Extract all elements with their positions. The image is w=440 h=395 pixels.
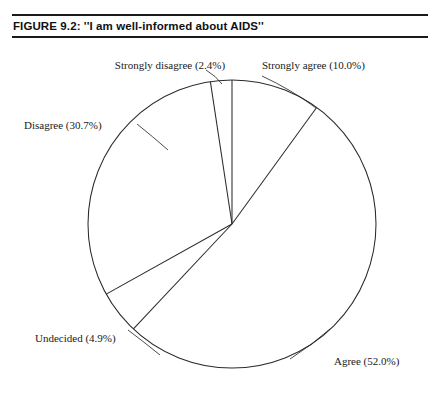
pie-label-strongly-disagree: Strongly disagree (2.4%) [115, 59, 226, 72]
pie-spoke-undecided-start [133, 224, 232, 329]
leader-line-disagree [137, 124, 168, 150]
pie-chart-svg: Strongly disagree (2.4%) Strongly agree … [0, 46, 440, 395]
pie-spoke-agree-start [232, 108, 317, 225]
figure-title-block: FIGURE 9.2: ''I am well-informed about A… [12, 14, 428, 38]
pie-label-disagree: Disagree (30.7%) [24, 119, 102, 132]
pie-spoke-disagree-start [106, 224, 232, 294]
leader-line-undecided [128, 330, 160, 355]
pie-label-agree: Agree (52.0%) [334, 355, 400, 368]
leader-line-agree [290, 329, 330, 359]
pie-label-strongly-agree: Strongly agree (10.0%) [262, 59, 365, 72]
pie-label-undecided: Undecided (4.9%) [35, 332, 116, 345]
pie-chart-area: Strongly disagree (2.4%) Strongly agree … [0, 46, 440, 395]
title-rule-bottom [12, 36, 428, 38]
pie-spoke-strongly-disagree-start [210, 82, 232, 224]
figure-container: FIGURE 9.2: ''I am well-informed about A… [0, 0, 440, 395]
page-title: FIGURE 9.2: ''I am well-informed about A… [12, 16, 428, 36]
